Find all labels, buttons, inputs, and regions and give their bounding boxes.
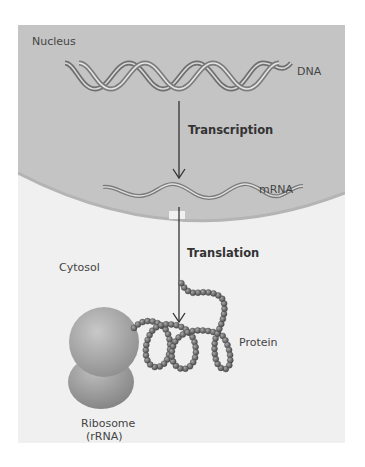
protein-chain-icon xyxy=(131,280,233,372)
rrna-label: (rRNA) xyxy=(86,430,123,443)
nucleus-region xyxy=(18,25,345,221)
central-dogma-illustration xyxy=(18,25,345,443)
protein-label: Protein xyxy=(239,336,278,349)
translation-arrow-icon xyxy=(173,207,185,322)
nucleus-label: Nucleus xyxy=(32,35,76,48)
transcription-label: Transcription xyxy=(188,123,273,137)
cytosol-label: Cytosol xyxy=(59,261,100,274)
ribosome-icon xyxy=(68,307,139,409)
dna-label: DNA xyxy=(297,65,321,78)
ribosome-label: Ribosome xyxy=(81,417,135,430)
translation-label: Translation xyxy=(187,246,259,260)
nuclear-pore xyxy=(169,211,185,219)
mrna-label: mRNA xyxy=(259,183,293,196)
diagram-panel: Nucleus DNA Transcription mRNA Translati… xyxy=(18,25,345,443)
